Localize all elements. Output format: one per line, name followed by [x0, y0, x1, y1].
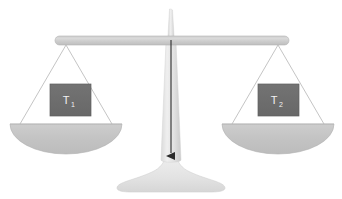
right-weight-block-symbol: T	[271, 94, 278, 106]
balance-scale-svg: T 1 T 2	[0, 0, 342, 199]
left-pan	[10, 124, 122, 154]
balance-scale-figure: T 1 T 2	[0, 0, 342, 199]
right-weight-block: T 2	[258, 84, 299, 116]
left-weight-block: T 1	[50, 84, 91, 116]
right-weight-block-subscript: 2	[279, 101, 283, 108]
left-weight-block-subscript: 1	[71, 101, 75, 108]
left-weight-block-symbol: T	[63, 94, 70, 106]
base-stand	[117, 158, 225, 192]
right-pan	[222, 124, 334, 154]
balance-beam	[55, 36, 289, 45]
